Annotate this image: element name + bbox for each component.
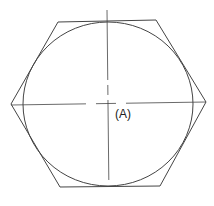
hexagon-diagram	[0, 0, 214, 206]
vertical-center-line	[107, 10, 109, 196]
point-label: (A)	[115, 107, 131, 121]
horizontal-center-line	[11, 102, 206, 105]
